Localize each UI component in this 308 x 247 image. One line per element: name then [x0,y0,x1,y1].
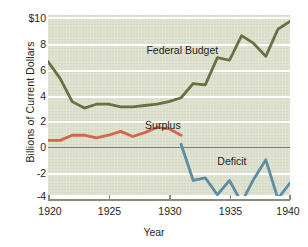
x-tick [169,195,171,200]
x-tick [109,195,111,200]
y-tick-label: 0 [2,141,46,153]
x-tick-label: 1940 [276,205,299,217]
series-label-deficit: Deficit [217,155,246,167]
series-label-surplus: Surplus [145,119,181,131]
line-deficit [181,144,290,196]
line-federal-budget [48,21,290,108]
y-tick-label: -4 [2,190,46,202]
x-tick [230,195,232,200]
x-tick-label: 1925 [98,205,121,217]
series-label-federal-budget: Federal Budget [146,44,218,56]
x-tick [289,195,291,200]
x-tick-label: 1930 [158,205,181,217]
x-axis-title: Year [0,226,308,238]
series-lines [48,15,290,196]
y-tick-label: $10 [2,12,46,24]
x-tick-label: 1920 [38,205,61,217]
plot-area: Federal Budget Surplus Deficit [48,15,290,196]
y-tick-label: 8 [2,38,46,50]
chart-figure: Billions of Current Dollars $10 8 6 4 2 … [0,0,308,247]
y-tick-label: 4 [2,90,46,102]
y-tick-label: 6 [2,64,46,76]
x-tick-label: 1935 [219,205,242,217]
y-tick-label: -2 [2,167,46,179]
y-tick-label: 2 [2,115,46,127]
x-tick [48,195,50,200]
